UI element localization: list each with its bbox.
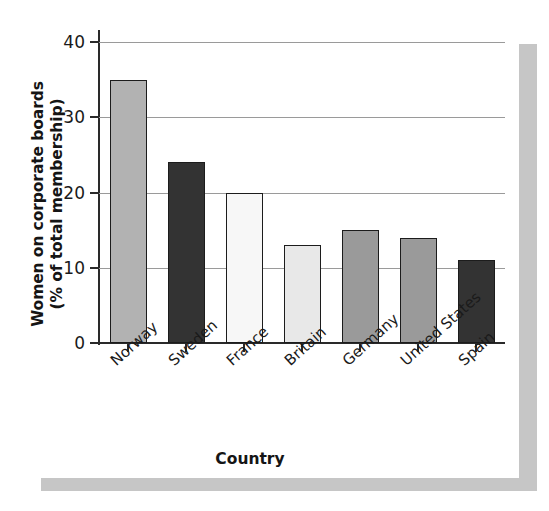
y-axis-tick-label: 30 — [63, 107, 85, 127]
y-axis-tick-mark — [90, 116, 99, 118]
y-axis-tick-mark — [90, 41, 99, 43]
scan-shadow-bottom — [41, 478, 537, 491]
bar-sweden — [168, 162, 205, 343]
y-axis-tick-label: 0 — [74, 333, 85, 353]
y-axis-tick-label: 40 — [63, 32, 85, 52]
y-axis-tick-label: 20 — [63, 183, 85, 203]
y-axis-tick-mark — [90, 267, 99, 269]
y-axis-tick-mark — [90, 192, 99, 194]
y-axis-tick-label: 10 — [63, 258, 85, 278]
y-axis-tick-mark — [90, 342, 99, 344]
bar-france — [226, 193, 263, 344]
gridline — [99, 117, 505, 118]
x-axis-title: Country — [0, 450, 500, 468]
y-axis-title-line2: (% of total membership) — [48, 99, 67, 310]
gridline — [99, 42, 505, 43]
plot-area — [99, 42, 505, 343]
bar-norway — [110, 80, 147, 343]
bar-chart-figure: Women on corporate boards (% of total me… — [0, 0, 549, 511]
y-axis-title-line1: Women on corporate boards — [29, 81, 48, 327]
scan-shadow-right — [519, 44, 537, 478]
y-axis-title: Women on corporate boards (% of total me… — [20, 39, 76, 369]
gridline — [99, 193, 505, 194]
